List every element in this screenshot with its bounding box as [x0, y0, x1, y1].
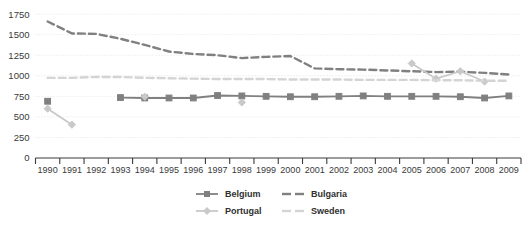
- chart-canvas: 02505007501000125015001750 1990199119921…: [0, 0, 531, 233]
- data-point-marker: [215, 93, 221, 99]
- x-tick-label: 2003: [353, 165, 373, 175]
- x-axis: [36, 158, 522, 164]
- data-point-marker: [360, 93, 366, 99]
- y-tick-label: 500: [14, 111, 30, 122]
- x-tick-label: 1995: [159, 165, 179, 175]
- x-axis-tick-labels: 1990199119921993199419951996199719981999…: [38, 165, 519, 175]
- y-tick-label: 0: [24, 152, 29, 163]
- x-tick-label: 1992: [86, 165, 106, 175]
- x-tick-label: 1990: [38, 165, 58, 175]
- data-point-marker: [385, 93, 391, 99]
- legend-item-sweden[interactable]: Sweden: [282, 206, 345, 216]
- y-tick-label: 250: [14, 132, 30, 143]
- data-point-marker: [457, 68, 464, 75]
- x-tick-label: 2002: [329, 165, 349, 175]
- data-point-marker: [433, 93, 439, 99]
- data-point-marker: [312, 94, 318, 100]
- line-chart: 02505007501000125015001750 1990199119921…: [0, 0, 531, 233]
- legend-item-belgium[interactable]: Belgium: [196, 189, 261, 199]
- x-tick-label: 2005: [402, 165, 422, 175]
- data-point-marker: [238, 99, 245, 106]
- x-tick-label: 2004: [377, 165, 397, 175]
- data-point-marker: [482, 95, 488, 101]
- legend-label: Sweden: [311, 206, 345, 216]
- legend-marker: [204, 191, 210, 197]
- data-point-marker: [118, 95, 124, 101]
- data-point-marker: [457, 94, 463, 100]
- x-tick-label: 2009: [499, 165, 519, 175]
- legend-label: Bulgaria: [311, 189, 348, 199]
- x-tick-label: 1996: [183, 165, 203, 175]
- chart-legend: BelgiumBulgariaPortugalSweden: [196, 189, 348, 216]
- x-tick-label: 2007: [450, 165, 470, 175]
- legend-marker: [203, 207, 211, 215]
- x-tick-label: 1998: [232, 165, 252, 175]
- y-tick-label: 1250: [8, 50, 29, 61]
- x-tick-label: 2006: [426, 165, 446, 175]
- data-point-marker: [166, 95, 172, 101]
- y-axis-tick-labels: 02505007501000125015001750: [8, 9, 29, 164]
- legend-label: Portugal: [225, 206, 262, 216]
- x-tick-label: 1991: [62, 165, 82, 175]
- data-point-marker: [506, 93, 512, 99]
- series-bulgaria: [48, 22, 509, 75]
- x-tick-label: 1993: [110, 165, 130, 175]
- y-tick-label: 1000: [8, 70, 29, 81]
- data-series-group: [44, 22, 512, 129]
- x-tick-label: 2000: [280, 165, 300, 175]
- legend-item-portugal[interactable]: Portugal: [196, 206, 262, 216]
- legend-label: Belgium: [225, 189, 261, 199]
- data-point-marker: [263, 93, 269, 99]
- x-tick-label: 1994: [135, 165, 155, 175]
- data-point-marker: [409, 93, 415, 99]
- x-tick-label: 2008: [475, 165, 495, 175]
- x-tick-label: 2001: [305, 165, 325, 175]
- legend-item-bulgaria[interactable]: Bulgaria: [282, 189, 348, 199]
- y-tick-label: 1750: [8, 9, 29, 20]
- y-tick-label: 1500: [8, 29, 29, 40]
- data-point-marker: [239, 93, 245, 99]
- y-tick-label: 750: [14, 91, 30, 102]
- x-tick-label: 1999: [256, 165, 276, 175]
- series-belgium: [45, 93, 512, 105]
- x-tick-label: 1997: [208, 165, 228, 175]
- data-point-marker: [45, 98, 51, 104]
- data-point-marker: [287, 94, 293, 100]
- series-line: [48, 22, 509, 75]
- data-point-marker: [336, 93, 342, 99]
- data-point-marker: [190, 95, 196, 101]
